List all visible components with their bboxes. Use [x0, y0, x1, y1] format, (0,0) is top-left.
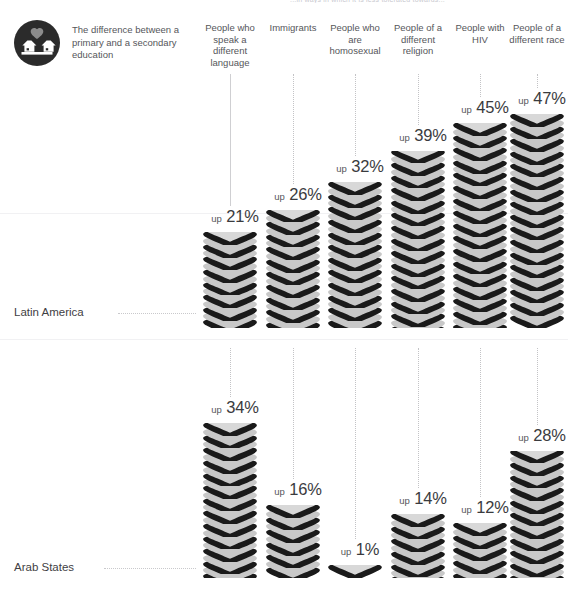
value-prefix: up	[461, 504, 472, 515]
value-label-r2-c2: up 16%	[267, 480, 329, 499]
guide-line-r1-c3	[355, 74, 356, 156]
infographic-canvas: ...in ways in which it is less tolerated…	[0, 0, 568, 597]
value-number: 45%	[476, 98, 508, 116]
value-label-r2-c5: up 12%	[454, 498, 516, 517]
guide-line-r1-c1	[230, 74, 231, 206]
bar-latin-america-col1	[202, 232, 258, 328]
guide-line-r2-c6	[537, 348, 538, 425]
heart-disc	[452, 123, 508, 136]
value-prefix: up	[274, 486, 285, 497]
column-header-2: Immigrants	[262, 22, 324, 34]
value-prefix: up	[461, 104, 472, 115]
value-label-r1-c1: up 21%	[204, 207, 266, 226]
heart-disc	[265, 505, 321, 518]
guide-line-r1-c4	[418, 74, 419, 125]
column-header-6: People of a different race	[506, 22, 568, 45]
value-prefix: up	[274, 191, 285, 202]
guide-line-r2-c1	[230, 348, 231, 397]
heart-disc	[452, 523, 508, 536]
heart-disc	[265, 210, 321, 223]
value-prefix: up	[211, 213, 222, 224]
value-label-r1-c2: up 26%	[267, 185, 329, 204]
bar-latin-america-col5	[452, 123, 508, 328]
row-label-arab-states: Arab States	[14, 561, 74, 573]
houses-heart-circle-icon	[14, 20, 60, 70]
bar-arab-states-col2	[265, 505, 321, 578]
row-label-latin-america: Latin America	[14, 306, 84, 318]
column-header-5: People with HIV	[449, 22, 511, 45]
value-number: 28%	[533, 426, 565, 444]
bar-arab-states-col3	[327, 565, 383, 578]
value-prefix: up	[399, 495, 410, 506]
row-leader-arab-states	[104, 568, 196, 569]
guide-line-r1-c5	[480, 74, 481, 97]
value-number: 16%	[289, 480, 321, 498]
value-number: 34%	[226, 398, 258, 416]
value-label-r2-c4: up 14%	[392, 489, 454, 508]
heart-disc	[202, 423, 258, 436]
heart-disc	[509, 114, 565, 127]
value-number: 14%	[414, 489, 446, 507]
heart-disc	[327, 182, 383, 195]
value-prefix: up	[518, 95, 529, 106]
value-number: 1%	[356, 540, 379, 558]
top-caption: ...in ways in which it is less tolerated…	[290, 0, 460, 3]
heart-disc	[390, 151, 446, 164]
heart-disc	[509, 451, 565, 464]
value-number: 26%	[289, 185, 321, 203]
value-label-r1-c4: up 39%	[392, 126, 454, 145]
value-number: 21%	[226, 207, 258, 225]
legend-label: The difference between a primary and a s…	[72, 20, 189, 62]
legend: The difference between a primary and a s…	[14, 20, 189, 70]
value-label-r1-c6: up 47%	[511, 89, 568, 108]
value-number: 47%	[533, 89, 565, 107]
bar-latin-america-col6	[509, 114, 565, 328]
bar-arab-states-col1	[202, 423, 258, 578]
guide-line-r2-c4	[418, 348, 419, 488]
column-header-1: People who speak a different language	[199, 22, 261, 68]
value-prefix: up	[518, 432, 529, 443]
value-number: 32%	[351, 157, 383, 175]
bar-latin-america-col2	[265, 210, 321, 328]
bar-arab-states-col5	[452, 523, 508, 578]
heart-disc	[202, 232, 258, 245]
guide-line-r1-c2	[293, 74, 294, 184]
value-label-r2-c3: up 1%	[329, 540, 391, 559]
value-label-r2-c6: up 28%	[511, 426, 568, 445]
bar-latin-america-col3	[327, 182, 383, 328]
guide-line-r2-c2	[293, 348, 294, 479]
heart-disc	[390, 514, 446, 527]
value-prefix: up	[341, 546, 352, 557]
bar-arab-states-col6	[509, 451, 565, 578]
row-leader-latin-america	[118, 313, 196, 314]
bar-latin-america-col4	[390, 151, 446, 328]
value-number: 39%	[414, 126, 446, 144]
bar-arab-states-col4	[390, 514, 446, 578]
column-header-3: People who are homosexual	[324, 22, 386, 57]
value-label-r1-c3: up 32%	[329, 157, 391, 176]
value-label-r1-c5: up 45%	[454, 98, 516, 117]
guide-line-r2-c3	[355, 348, 356, 539]
column-header-4: People of a different religion	[387, 22, 449, 57]
guide-line-r1-c6	[537, 74, 538, 88]
heart-disc	[327, 565, 383, 578]
divider-line-bottom	[0, 339, 568, 340]
value-prefix: up	[399, 132, 410, 143]
value-number: 12%	[476, 498, 508, 516]
guide-line-r2-c5	[480, 348, 481, 497]
value-prefix: up	[336, 163, 347, 174]
value-label-r2-c1: up 34%	[204, 398, 266, 417]
value-prefix: up	[211, 404, 222, 415]
